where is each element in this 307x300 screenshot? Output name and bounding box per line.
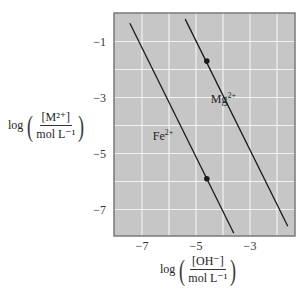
y-tick-label: −7 <box>93 203 106 217</box>
x-axis-label: log ( [OH⁻] mol L⁻¹ ) <box>160 254 238 285</box>
y-tick-labels: −1−3−5−7 <box>93 35 106 217</box>
left-paren: ( <box>179 255 185 285</box>
y-axis-denominator: mol L⁻¹ <box>36 126 75 141</box>
right-paren: ) <box>78 111 84 141</box>
y-tick-label: −5 <box>93 147 106 161</box>
x-axis-numerator: [OH⁻] <box>190 254 226 270</box>
y-axis-label: log ( [M²⁺] mol L⁻¹ ) <box>8 110 86 141</box>
chart-canvas: −7−5−3 −1−3−5−7 Fe2+Mg2+ <box>0 0 307 300</box>
x-tick-label: −5 <box>190 239 203 253</box>
x-axis-denominator: mol L⁻¹ <box>188 270 227 285</box>
data-point-marker <box>204 58 210 64</box>
x-axis-fraction: [OH⁻] mol L⁻¹ <box>188 254 227 285</box>
x-axis-log-prefix: log <box>160 262 175 277</box>
y-tick-label: −1 <box>93 35 106 49</box>
y-axis-numerator: [M²⁺] <box>40 110 73 126</box>
x-tick-label: −3 <box>244 239 257 253</box>
left-paren: ( <box>27 111 33 141</box>
y-axis-log-prefix: log <box>8 118 23 133</box>
x-tick-labels: −7−5−3 <box>136 239 257 253</box>
y-axis-fraction: [M²⁺] mol L⁻¹ <box>36 110 75 141</box>
right-paren: ) <box>230 255 236 285</box>
y-tick-label: −3 <box>93 91 106 105</box>
data-point-marker <box>204 176 210 182</box>
x-tick-label: −7 <box>136 239 149 253</box>
